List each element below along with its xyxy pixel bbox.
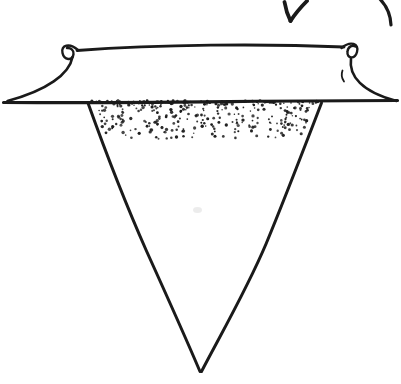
stipple-dot [160,104,162,106]
stipple-dot [105,131,108,134]
stipple-dot [190,101,192,103]
stipple-dot [193,132,195,134]
stipple-dot [299,109,301,111]
stipple-dot [176,100,179,103]
stipple-dot [287,123,290,126]
stipple-dot [220,100,223,103]
stipple-dot [182,108,185,111]
stipple-dot [178,126,180,128]
stipple-dot [193,126,196,129]
stipple-dot [194,106,195,107]
stipple-dot [214,130,216,132]
stipple-dot [202,119,204,121]
stipple-dot [165,128,168,131]
stipple-dot [301,104,304,107]
stipple-dot [146,100,149,103]
stipple-dot [284,118,286,120]
stipple-dot [251,114,254,117]
stipple-dot [205,125,207,127]
stipple-dot [292,115,294,117]
stipple-dot [282,134,285,137]
stipple-dot [155,121,157,123]
stipple-dot [241,115,244,118]
stipple-dot [250,110,252,112]
stipple-dot [120,114,123,117]
stipple-dot [301,119,303,121]
stipple-dot [283,124,285,126]
stipple-dot [221,109,222,110]
stipple-dot [297,100,300,103]
stipple-dot [171,102,174,105]
cone-right-edge [202,103,322,372]
stipple-dot [114,101,117,104]
stipple-dot [202,108,204,110]
stipple-dot [175,129,178,132]
stipple-dot [172,99,175,102]
stipple-dot [131,103,133,105]
stipple-dot [225,102,227,104]
stipple-dot [282,126,284,128]
stipple-dot [222,135,225,138]
stipple-dot [153,109,155,111]
stipple-dot [156,136,157,137]
stipple-dot [224,106,227,109]
rotation-arrowhead-shaft [291,1,308,21]
stipple-dot [179,110,182,113]
stipple-dot [140,103,141,104]
stipple-dot [219,117,221,119]
stipple-dot [128,101,130,103]
stipple-dot [238,113,240,115]
stipple-dot [257,103,258,104]
stipple-dot [186,118,188,120]
stipple-dot [241,118,244,121]
stipple-dot [120,124,123,127]
stipple-dot [203,122,205,124]
stipple-dot [149,102,151,104]
stipple-dot [174,115,175,116]
stipple-dot [130,129,132,131]
stipple-dot [233,100,235,102]
stipple-dot [144,104,146,106]
stipple-dot [256,101,258,103]
stipple-dot [254,107,256,109]
stipple-dot [140,109,143,112]
stipple-dot [241,122,243,124]
cone-left-edge [88,103,200,372]
stipple-dot [295,125,297,127]
cone-sketch-drawing [0,0,401,384]
stipple-dot [96,100,98,102]
stipple-dot [255,134,258,137]
stipple-dot [271,115,273,117]
pencil-smudge [193,207,202,213]
stipple-dot [183,102,186,105]
stipple-dot [137,110,140,113]
stipple-dot [208,101,211,104]
stipple-dot [187,113,190,116]
stipple-dot [217,121,220,124]
stipple-dot [156,111,159,114]
stipple-dot [248,124,250,126]
stipple-dot [217,104,220,107]
stipple-dot [269,128,272,131]
stipple-dot [200,114,203,117]
stipple-dot [111,125,114,128]
stipple-dot [196,120,198,122]
stipple-dot [211,132,214,135]
stipple-dot [166,137,168,139]
stipple-dot [99,113,101,115]
stipple-dot [259,99,262,102]
stipple-dot [155,100,158,103]
stipple-dot [138,132,141,135]
stipple-dot [280,119,283,122]
stipple-dot [184,104,187,107]
stipple-dot [212,117,215,120]
stipple-dot [236,119,238,121]
stipple-dot [121,131,124,134]
stipple-dot [276,122,278,124]
stipple-dot [279,103,282,106]
stipple-dot [141,104,143,106]
stipple-dot [237,130,239,132]
stipple-dot [229,100,232,103]
stipple-dot [179,105,182,108]
stipple-dot [252,104,254,106]
